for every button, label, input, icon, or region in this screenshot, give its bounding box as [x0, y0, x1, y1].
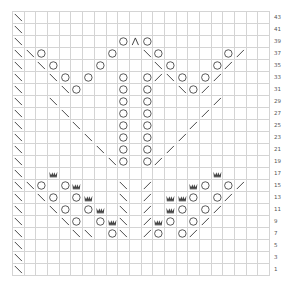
- stitch-cell: [13, 96, 25, 108]
- stitch-cell: [13, 228, 25, 240]
- stitch-cell: [142, 96, 154, 108]
- right-decrease-icon: [188, 120, 199, 131]
- stitch-cell: [223, 204, 235, 216]
- yarn-over-icon: [60, 180, 71, 191]
- stitch-cell: [177, 120, 189, 132]
- stitch-cell: [25, 216, 37, 228]
- stitch-cell: [25, 48, 37, 60]
- stitch-cell: [48, 168, 60, 180]
- stitch-cell: [235, 108, 247, 120]
- stitch-cell: [200, 168, 212, 180]
- stitch-cell: [258, 132, 270, 144]
- stitch-cell: [25, 24, 37, 36]
- stitch-cell: [247, 120, 259, 132]
- stitch-cell: [118, 168, 130, 180]
- stitch-cell: [153, 120, 165, 132]
- stitch-cell: [36, 156, 48, 168]
- stitch-cell: [95, 96, 107, 108]
- stitch-cell: [223, 156, 235, 168]
- stitch-cell: [107, 24, 119, 36]
- stitch-cell: [177, 84, 189, 96]
- stitch-cell: [25, 120, 37, 132]
- yarn-over-icon: [142, 84, 153, 95]
- stitch-cell: [165, 228, 177, 240]
- stitch-cell: [36, 72, 48, 84]
- stitch-cell: [212, 36, 224, 48]
- stitch-cell: [107, 60, 119, 72]
- stitch-cell: [142, 240, 154, 252]
- stitch-cell: [60, 72, 72, 84]
- stitch-cell: [212, 120, 224, 132]
- stitch-cell: [71, 144, 83, 156]
- stitch-cell: [48, 36, 60, 48]
- stitch-cell: [235, 24, 247, 36]
- stitch-cell: [212, 228, 224, 240]
- row-number-label: 11: [274, 206, 290, 212]
- bobble-crown-icon: [48, 168, 59, 179]
- stitch-cell: [177, 108, 189, 120]
- row-number-label: 17: [274, 170, 290, 176]
- stitch-cell: [130, 12, 142, 24]
- stitch-cell: [223, 60, 235, 72]
- stitch-cell: [130, 264, 142, 276]
- stitch-cell: [247, 96, 259, 108]
- yarn-over-icon: [118, 144, 129, 155]
- stitch-cell: [247, 168, 259, 180]
- stitch-cell: [107, 108, 119, 120]
- left-decrease-icon: [71, 120, 82, 131]
- stitch-cell: [247, 144, 259, 156]
- stitch-cell: [142, 264, 154, 276]
- stitch-cell: [36, 168, 48, 180]
- stitch-cell: [258, 180, 270, 192]
- stitch-cell: [118, 60, 130, 72]
- stitch-cell: [223, 252, 235, 264]
- stitch-cell: [25, 252, 37, 264]
- right-decrease-icon: [200, 216, 211, 227]
- bobble-crown-icon: [71, 180, 82, 191]
- row-number-label: 25: [274, 122, 290, 128]
- stitch-cell: [142, 36, 154, 48]
- stitch-cell: [235, 216, 247, 228]
- stitch-cell: [177, 168, 189, 180]
- stitch-cell: [247, 252, 259, 264]
- left-decrease-icon: [13, 48, 24, 59]
- stitch-cell: [258, 108, 270, 120]
- stitch-cell: [95, 48, 107, 60]
- stitch-cell: [153, 252, 165, 264]
- stitch-cell: [130, 144, 142, 156]
- stitch-cell: [235, 204, 247, 216]
- stitch-cell: [130, 60, 142, 72]
- stitch-cell: [130, 240, 142, 252]
- stitch-cell: [83, 252, 95, 264]
- yarn-over-icon: [142, 108, 153, 119]
- stitch-cell: [36, 60, 48, 72]
- stitch-cell: [235, 264, 247, 276]
- stitch-cell: [142, 192, 154, 204]
- stitch-cell: [223, 180, 235, 192]
- stitch-cell: [212, 72, 224, 84]
- stitch-cell: [25, 156, 37, 168]
- stitch-cell: [107, 240, 119, 252]
- left-decrease-icon: [118, 216, 129, 227]
- stitch-cell: [60, 192, 72, 204]
- stitch-cell: [165, 192, 177, 204]
- stitch-cell: [71, 120, 83, 132]
- left-decrease-icon: [13, 144, 24, 155]
- stitch-cell: [212, 84, 224, 96]
- stitch-cell: [83, 168, 95, 180]
- stitch-cell: [177, 72, 189, 84]
- stitch-cell: [200, 60, 212, 72]
- stitch-cell: [83, 96, 95, 108]
- stitch-cell: [118, 36, 130, 48]
- stitch-cell: [107, 84, 119, 96]
- chart-row-17: [13, 168, 270, 180]
- stitch-cell: [118, 72, 130, 84]
- stitch-cell: [177, 228, 189, 240]
- stitch-cell: [118, 264, 130, 276]
- stitch-cell: [130, 48, 142, 60]
- left-decrease-icon: [60, 216, 71, 227]
- stitch-cell: [95, 84, 107, 96]
- stitch-cell: [258, 156, 270, 168]
- stitch-grid: [12, 11, 270, 276]
- stitch-cell: [153, 84, 165, 96]
